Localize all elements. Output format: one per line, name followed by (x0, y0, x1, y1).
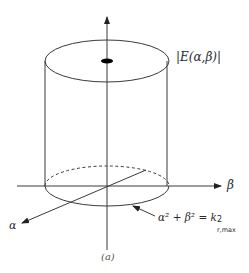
equation-main: α² + β² = k (158, 211, 217, 223)
figure-caption: (a) (101, 251, 115, 262)
cylinder-diagram (0, 0, 249, 273)
equation-subscript: r,max (217, 226, 236, 234)
diagram-canvas: |E(α,β)| β α α² + β² = k2r,max (a) (0, 0, 249, 273)
equation-pointer-arrow (133, 206, 155, 216)
peak-dot (101, 58, 113, 63)
alpha-axis (22, 170, 146, 223)
equation-superscript: 2 (217, 215, 222, 224)
alpha-axis-label: α (9, 219, 16, 232)
beta-axis-label: β (227, 178, 234, 192)
cutoff-equation: α² + β² = k2r,max (158, 211, 231, 223)
magnitude-label: |E(α,β)| (176, 50, 221, 64)
